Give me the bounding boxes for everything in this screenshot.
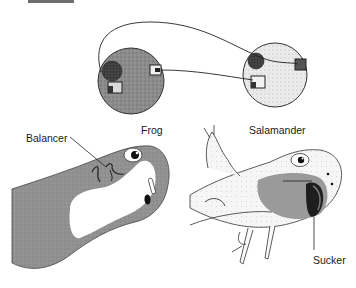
sucker-label: Sucker — [313, 254, 346, 266]
frog-embryo — [98, 48, 164, 114]
salamander-forelimb — [206, 132, 240, 176]
frog-neural-patch — [102, 61, 122, 81]
salamander-larva — [190, 125, 342, 264]
salamander-graft-square-right — [295, 59, 306, 70]
diagram-canvas — [0, 0, 356, 288]
frog-label: Frog — [141, 124, 163, 136]
frog-tadpole — [12, 146, 169, 269]
salamander-embryo — [243, 43, 307, 107]
balancer-label: Balancer — [26, 132, 67, 144]
salamander-label: Salamander — [249, 124, 306, 136]
